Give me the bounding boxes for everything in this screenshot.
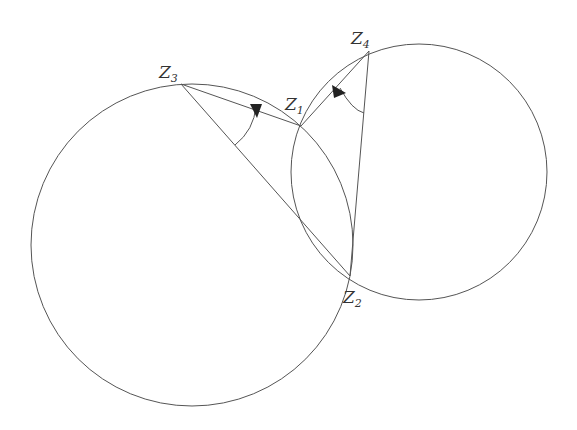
label-z1: Z1 [284,94,304,117]
left-circle [31,84,353,406]
diagram-canvas: Z3 Z1 Z4 Z2 [0,0,577,430]
angle-arc-z3 [235,106,256,145]
label-z2: Z2 [342,287,362,310]
segment-z4-z2 [350,51,369,276]
right-circle [291,44,547,300]
arrowhead-z4-icon [332,85,346,98]
arrowhead-z3-icon [250,104,262,118]
label-z3: Z3 [158,62,178,85]
label-z4: Z4 [350,28,370,51]
segment-z3-z2 [181,84,350,276]
